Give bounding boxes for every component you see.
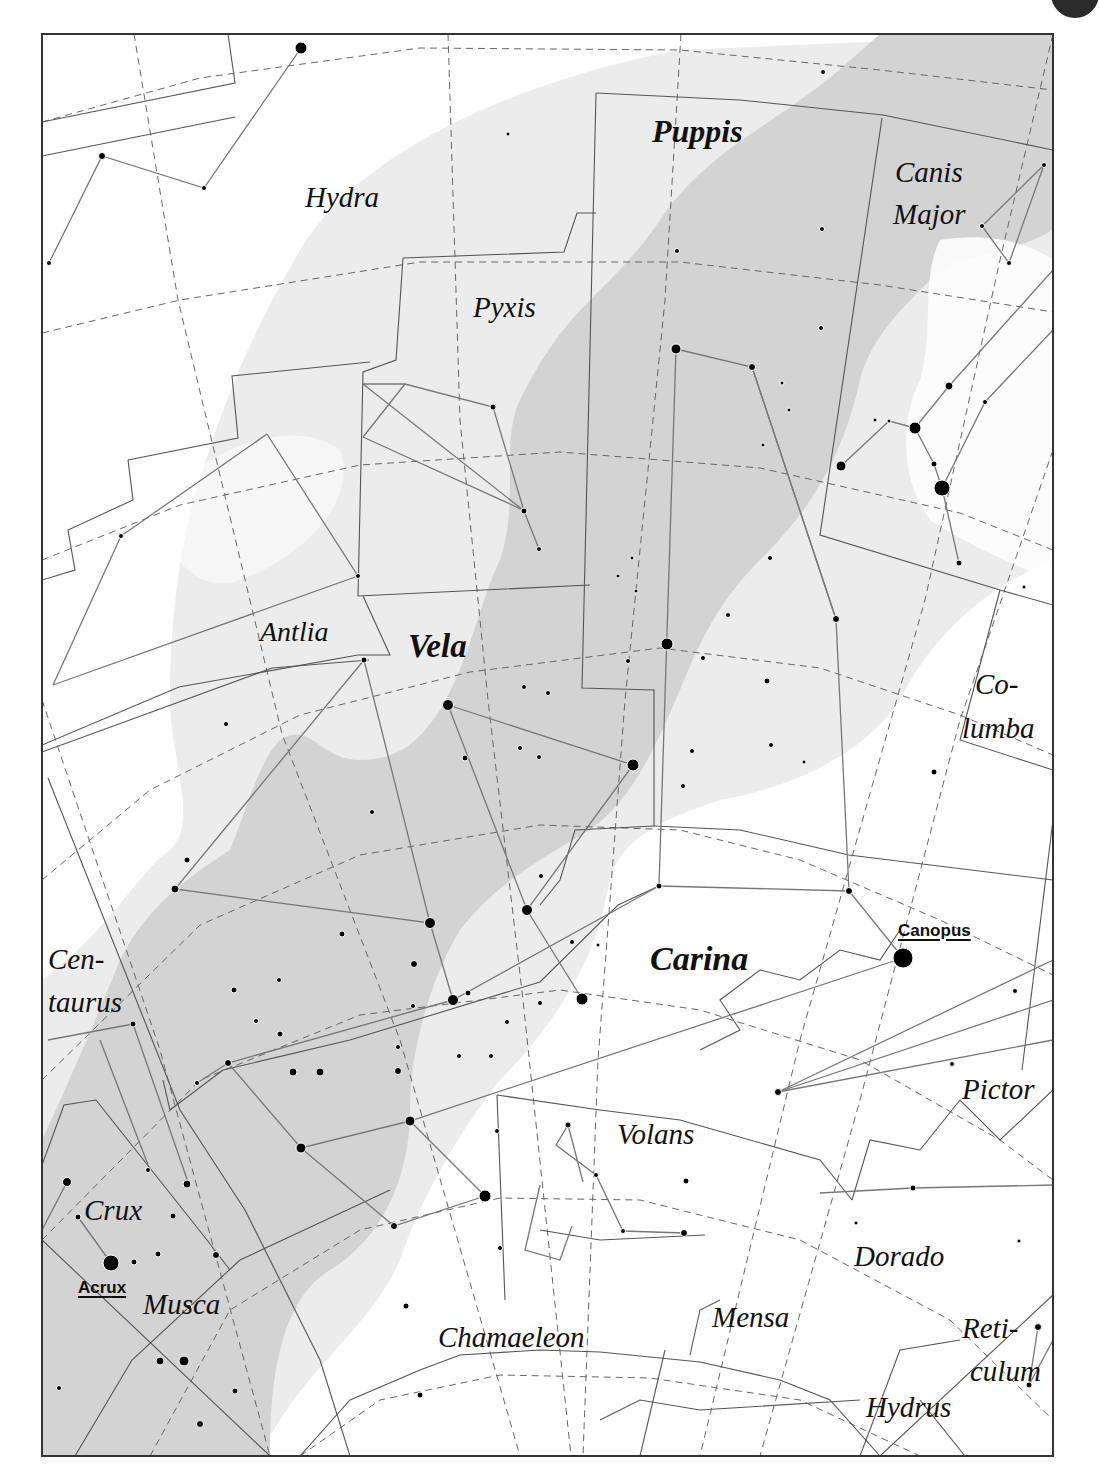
star-dot <box>836 461 846 471</box>
label-centaurus-line1: Cen- <box>48 945 104 974</box>
star-dot <box>277 1031 283 1037</box>
star-dot <box>634 589 638 593</box>
star-dot <box>626 659 631 664</box>
star-dot <box>506 132 510 136</box>
star-dot <box>1007 261 1012 266</box>
star-dot <box>183 1180 191 1188</box>
star-dot <box>489 1054 494 1059</box>
star-dot <box>537 755 542 760</box>
star-dot <box>931 769 937 775</box>
star-dot <box>156 1357 164 1365</box>
star-dot <box>103 1255 119 1271</box>
star-dot <box>495 1129 500 1134</box>
star-dot <box>769 743 774 748</box>
star-dot <box>833 616 840 623</box>
label-hydrus: Hydrus <box>866 1393 951 1422</box>
star-dot <box>195 1081 200 1086</box>
star-dot <box>224 722 229 727</box>
star-dot <box>130 1021 136 1027</box>
label-columba-line1: Co- <box>975 670 1019 699</box>
star-dot <box>184 857 190 863</box>
star-dot <box>909 422 921 434</box>
label-pictor: Pictor <box>962 1075 1035 1104</box>
star-dot <box>498 1246 503 1251</box>
star-dot <box>411 961 418 968</box>
star-dot <box>701 656 706 661</box>
star-dot <box>1022 585 1026 589</box>
star-dot <box>690 749 695 754</box>
star-dot <box>490 404 496 410</box>
label-reticulum-line2: culum <box>970 1357 1041 1386</box>
star-dot <box>893 948 913 968</box>
star-dot <box>63 1178 72 1187</box>
star-label-canopus: Canopus <box>898 921 971 941</box>
star-dot <box>395 1068 402 1075</box>
star-dot <box>1042 163 1047 168</box>
label-mensa: Mensa <box>712 1303 789 1332</box>
boundary-line <box>42 34 235 122</box>
star-dot <box>457 1054 462 1059</box>
star-dot <box>934 480 950 496</box>
star-dot <box>57 1386 62 1391</box>
star-dot <box>425 918 436 929</box>
star-dot <box>854 1221 858 1225</box>
star-dot <box>910 1185 916 1191</box>
star-dot <box>505 1020 510 1025</box>
label-dorado: Dorado <box>854 1242 944 1271</box>
star-dot <box>155 1251 161 1257</box>
star-dot <box>131 1259 137 1265</box>
star-dot <box>443 700 454 711</box>
star-dot <box>522 685 527 690</box>
star-dot <box>819 326 824 331</box>
star-dot <box>47 261 52 266</box>
star-dot <box>775 1089 782 1096</box>
star-dot <box>681 1230 688 1237</box>
star-dot <box>296 1143 306 1153</box>
star-dot <box>621 1229 626 1234</box>
star-dot <box>656 883 662 889</box>
figure-line <box>53 536 121 685</box>
star-dot <box>99 153 106 160</box>
star-label-acrux: Acrux <box>78 1278 126 1298</box>
star-dot <box>780 381 784 385</box>
star-dot <box>370 810 375 815</box>
star-dot <box>539 874 544 879</box>
star-dot <box>950 1062 955 1067</box>
star-dot <box>768 556 773 561</box>
star-dot <box>75 1214 81 1220</box>
label-crux: Crux <box>84 1196 142 1225</box>
label-vela: Vela <box>408 630 467 663</box>
star-dot <box>616 574 620 578</box>
star-dot <box>546 691 551 696</box>
star-dot <box>417 1392 423 1398</box>
star-dot <box>361 657 367 663</box>
star-dot <box>277 978 282 983</box>
star-dot <box>254 1019 259 1024</box>
label-reticulum-line1: Reti- <box>962 1314 1018 1343</box>
star-dot <box>671 344 681 354</box>
star-dot <box>448 995 459 1006</box>
star-dot <box>630 556 634 560</box>
star-dot <box>594 1173 599 1178</box>
star-dot <box>339 931 345 937</box>
star-dot <box>726 613 731 618</box>
label-pyxis: Pyxis <box>473 293 536 322</box>
star-dot <box>821 70 826 75</box>
star-dot <box>213 1252 220 1259</box>
star-dot <box>683 1178 689 1184</box>
label-centaurus-line2: taurus <box>48 988 122 1017</box>
label-canis-major-line2: Major <box>893 200 966 229</box>
star-dot <box>146 1168 151 1173</box>
star-dot <box>170 1213 176 1219</box>
boundary-line <box>42 117 235 156</box>
star-dot <box>231 987 237 993</box>
star-dot <box>761 443 765 447</box>
star-dot <box>565 1122 571 1128</box>
star-dot <box>576 993 588 1005</box>
label-columba-line2: lumba <box>962 714 1035 743</box>
star-dot <box>596 943 600 947</box>
label-canis-major-line1: Canis <box>895 158 963 187</box>
star-dot <box>119 534 124 539</box>
star-dot <box>518 746 523 751</box>
